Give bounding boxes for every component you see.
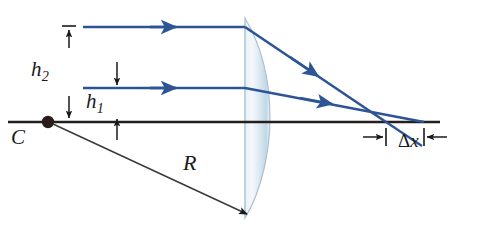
optics-diagram: h2 h1 C R Δx xyxy=(0,0,484,233)
refracted-rays xyxy=(245,27,424,146)
label-h1-subscript: 1 xyxy=(97,100,104,116)
radius-line xyxy=(53,124,247,214)
label-h1: h1 xyxy=(86,89,104,117)
label-radius: R xyxy=(183,150,196,176)
label-center-of-curvature: C xyxy=(11,125,25,150)
label-h1-base: h xyxy=(86,89,97,113)
label-h2: h2 xyxy=(31,57,49,85)
lens-body xyxy=(245,18,270,218)
label-delta-x-var: x xyxy=(410,130,418,151)
refracted-ray-lower-arrow xyxy=(300,98,332,104)
center-of-curvature-dot xyxy=(42,116,54,128)
label-delta-symbol: Δ xyxy=(398,130,410,151)
refracted-ray-upper-arrow xyxy=(290,57,318,76)
label-delta-x: Δx xyxy=(398,130,419,152)
label-h2-base: h xyxy=(31,57,42,81)
plano-convex-lens xyxy=(245,18,270,218)
incident-rays xyxy=(83,27,245,88)
height-dimension-h2 xyxy=(62,26,76,118)
label-h2-subscript: 2 xyxy=(42,68,49,84)
diagram-canvas xyxy=(0,0,484,233)
refracted-ray-lower xyxy=(245,88,424,122)
